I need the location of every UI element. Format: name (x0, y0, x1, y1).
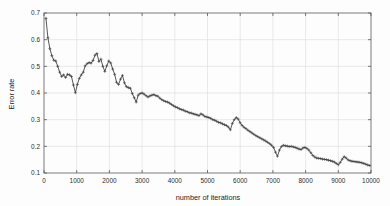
x-tick-label: 6000 (233, 177, 248, 184)
y-tick-label: 0.7 (31, 9, 40, 16)
y-tick-label: 0.6 (31, 36, 40, 43)
y-tick-label: 0.4 (31, 89, 40, 96)
y-tick-label: 0.5 (31, 63, 40, 70)
y-tick-label: 0.2 (31, 143, 40, 150)
error-rate-line-chart: 0100020003000400050006000700080009000100… (0, 0, 390, 206)
y-tick-label: 0.1 (31, 169, 40, 176)
x-tick-label: 0 (42, 177, 46, 184)
data-series (46, 18, 370, 165)
y-tick-labels: 0.10.20.30.40.50.60.7 (31, 9, 40, 176)
x-tick-label: 5000 (200, 177, 215, 184)
x-tick-label: 7000 (266, 177, 281, 184)
x-tick-label: 4000 (168, 177, 183, 184)
x-tick-label: 3000 (135, 177, 150, 184)
x-tick-label: 2000 (102, 177, 117, 184)
chart-figure: 0100020003000400050006000700080009000100… (0, 0, 390, 206)
y-tick-label: 0.3 (31, 116, 40, 123)
series-line-error-rate (46, 18, 370, 165)
data-markers (44, 17, 371, 167)
x-tick-label: 1000 (70, 177, 85, 184)
x-tick-label: 10000 (362, 177, 380, 184)
x-axis-title: number of iterations (176, 193, 241, 202)
grid-lines (44, 13, 371, 173)
x-tick-label: 8000 (298, 177, 313, 184)
x-tick-label: 9000 (331, 177, 346, 184)
x-tick-labels: 0100020003000400050006000700080009000100… (42, 177, 380, 184)
y-axis-title: Error rate (7, 79, 16, 110)
